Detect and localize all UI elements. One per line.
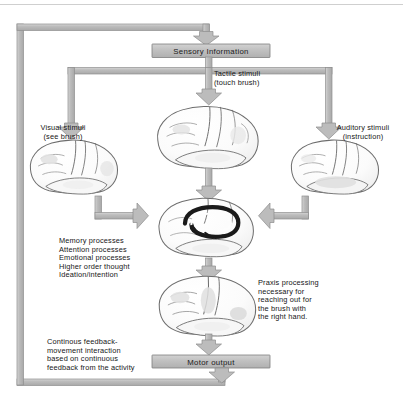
brain-tactile [158,106,259,168]
arrow-tactile-to-limbic [196,168,222,201]
feedback-interaction-label: Continous feedback- movement interaction… [47,338,169,372]
brain-praxis [159,276,255,336]
brain-auditory [291,140,378,194]
brain-limbic [159,198,253,256]
arrow-praxis-to-motor [196,334,222,355]
motor-output-label: Motor output [152,358,270,367]
tactile-stimuli-label: Tactile stimuli (touch brush) [214,70,300,87]
arrow-auditory-to-limbic [259,196,309,229]
brain-visual [30,140,117,194]
sensory-information-label: Sensory Information [152,47,270,56]
praxis-processing-label: Praxis processing necessary for reaching… [258,279,342,322]
arrow-visual-to-limbic [95,196,149,229]
visual-stimuli-label: Visual stimuli (see brush) [27,124,99,141]
auditory-stimuli-label: Auditory stimuli (instruction) [324,124,402,141]
diagram-canvas: Sensory Information Motor output Tactile… [0,0,404,410]
cognitive-processes-label: Memory processes Attention processes Emo… [59,237,167,280]
